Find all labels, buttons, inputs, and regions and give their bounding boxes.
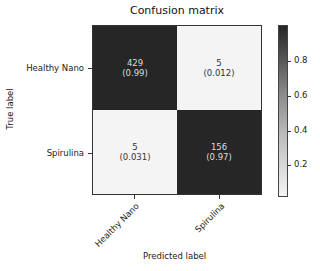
colorbar xyxy=(278,25,288,197)
cell-count: 5 xyxy=(132,142,137,152)
y-tick xyxy=(88,68,92,69)
cell-count: 5 xyxy=(216,58,221,68)
cell-ratio: (0.97) xyxy=(206,152,232,162)
colorbar-tick-label: 0.6 xyxy=(294,90,308,100)
colorbar-tick xyxy=(288,61,291,62)
cell-ratio: (0.012) xyxy=(204,68,235,78)
y-axis-label: True label xyxy=(5,88,15,129)
y-tick-label-healthy-nano: Healthy Nano xyxy=(26,63,84,73)
colorbar-tick xyxy=(288,96,291,97)
cell-spirulina-spirulina: 156 (0.97) xyxy=(177,110,261,194)
x-tick-label-spirulina: Spirulina xyxy=(193,201,226,234)
cell-healthy-healthy: 429 (0.99) xyxy=(93,26,177,110)
colorbar-tick-label: 0.8 xyxy=(294,55,308,65)
colorbar-tick xyxy=(288,165,291,166)
y-tick-label-spirulina: Spirulina xyxy=(47,148,84,158)
x-axis-label: Predicted label xyxy=(143,251,206,261)
x-tick xyxy=(134,195,135,199)
cell-count: 156 xyxy=(211,142,227,152)
x-tick-label-healthy-nano: Healthy Nano xyxy=(93,201,141,249)
cell-healthy-spirulina: 5 (0.012) xyxy=(177,26,261,110)
colorbar-tick xyxy=(288,131,291,132)
cell-spirulina-healthy: 5 (0.031) xyxy=(93,110,177,194)
confusion-matrix: 429 (0.99) 5 (0.012) 5 (0.031) 156 (0.97… xyxy=(92,25,262,195)
chart-title: Confusion matrix xyxy=(92,4,262,17)
x-tick xyxy=(219,195,220,199)
colorbar-tick-label: 0.2 xyxy=(294,159,308,169)
y-tick xyxy=(88,153,92,154)
colorbar-tick-label: 0.4 xyxy=(294,125,308,135)
cell-ratio: (0.031) xyxy=(120,152,151,162)
cell-count: 429 xyxy=(127,58,143,68)
cell-ratio: (0.99) xyxy=(122,68,148,78)
